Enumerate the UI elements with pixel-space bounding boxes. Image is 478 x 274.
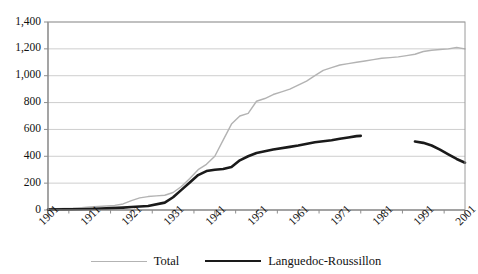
y-axis-tick-label: 1,200	[0, 41, 41, 53]
y-axis-tick-label: 0	[0, 203, 41, 215]
series-line-total	[48, 48, 465, 209]
legend-swatch-languedoc-icon	[205, 260, 261, 262]
y-axis-tick-label: 1,400	[0, 15, 41, 27]
data-series-layer	[48, 48, 465, 210]
legend-label-total: Total	[154, 254, 180, 269]
legend-swatch-total-icon	[91, 261, 147, 262]
x-axis-ticks	[44, 22, 465, 216]
series-line-languedoc-roussillon-seg1	[415, 142, 465, 163]
axis-lines	[48, 22, 465, 210]
y-axis-tick-label: 400	[0, 149, 41, 161]
legend-item-total: Total	[91, 254, 180, 269]
y-axis-tick-label: 800	[0, 95, 41, 107]
legend-item-languedoc-roussillon: Languedoc-Roussillon	[205, 254, 381, 269]
plot-border	[48, 22, 465, 210]
chart-legend: Total Languedoc-Roussillon	[0, 250, 472, 272]
gridlines	[48, 22, 465, 210]
y-axis-tick-label: 200	[0, 176, 41, 188]
y-axis-tick-label: 1,000	[0, 68, 41, 80]
y-axis-tick-label: 600	[0, 122, 41, 134]
series-line-languedoc-roussillon-seg0	[48, 136, 361, 210]
legend-label-languedoc-roussillon: Languedoc-Roussillon	[268, 254, 381, 269]
